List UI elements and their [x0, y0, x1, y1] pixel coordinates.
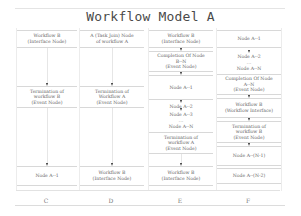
node-e-a1: Node A--1 [149, 75, 213, 100]
node-text: Node A--N [149, 124, 213, 130]
node-e-termination: Termination of workflow A (Event Node) [149, 132, 213, 154]
diagram-title: Workflow Model A [0, 9, 301, 24]
node-text: (Event Node) [217, 87, 281, 93]
node-text: (Workflow Interface) [217, 108, 281, 114]
node-d-termination: Termination of Workflow A (Event Node) [80, 86, 144, 108]
node-c-a1: Node A--1 [17, 166, 77, 186]
node-text: (Event Node) [149, 64, 213, 70]
node-text: (Event Node) [17, 100, 77, 106]
node-e-workflow-b-end: Workflow B (Interface Node) [149, 166, 213, 186]
node-text: Node A--1 [149, 85, 213, 91]
node-f-an: Node A--N [217, 65, 281, 72]
column-label-f: F [216, 197, 280, 204]
column-e: Workflow B (Interface Node) Completion O… [148, 28, 213, 191]
node-text: Node A--1 [17, 173, 77, 179]
node-text: Node A--(N-2) [217, 173, 281, 179]
node-e-completion: Completion Of Node B--N (Event Node) [149, 51, 213, 72]
column-f: Node A--1 Node A--2 ... Node A--N Comple… [216, 28, 282, 191]
column-label-c: C [16, 197, 76, 204]
node-c-termination: Termination of workflow B (Event Node) [17, 86, 77, 108]
node-text: Node A--1 [217, 36, 281, 42]
node-text: (Event Node) [217, 135, 281, 141]
node-text: (Interface Node) [149, 39, 213, 45]
node-text: of workflow A [80, 39, 144, 45]
node-text: (Interface Node) [17, 39, 77, 45]
column-label-d: D [79, 197, 143, 204]
connector-line [47, 108, 48, 164]
node-e-an: Node A--N [149, 123, 213, 130]
node-text: (Interface Node) [80, 176, 144, 182]
node-text: (Event Node) [149, 146, 213, 152]
node-text: (Interface Node) [149, 176, 213, 182]
connector-line [112, 108, 113, 164]
node-text: (Event Node) [80, 100, 144, 106]
node-f-an-2: Node A--(N-2) [217, 168, 281, 184]
node-f-completion: Completion Of Node A--N (Event Node) [217, 74, 281, 95]
node-c-workflow-b: Workflow B (Interface Node) [17, 30, 77, 48]
column-label-e: E [148, 197, 212, 204]
ellipsis: ... [217, 60, 281, 64]
node-f-termination: Termination of workflow B (Event Node) [217, 121, 281, 143]
node-d-task-join: A (Task Join) Node of workflow A [80, 30, 144, 48]
node-d-workflow-b: Workflow B (Interface Node) [80, 166, 144, 186]
node-text: Node A--N [217, 66, 281, 72]
column-c: Workflow B (Interface Node) Termination … [16, 28, 77, 191]
ellipsis: ... [149, 118, 213, 122]
node-text: Node A--(N-1) [217, 153, 281, 159]
connector-line [112, 48, 113, 84]
node-f-workflow-b: Workflow B (Workflow Interface) [217, 98, 281, 118]
node-e-workflow-b: Workflow B (Interface Node) [149, 30, 213, 48]
node-f-a1: Node A--1 [217, 30, 281, 48]
divider [16, 190, 280, 191]
connector-line [47, 48, 48, 84]
node-f-an-1: Node A--(N-1) [217, 146, 281, 166]
column-d: A (Task Join) Node of workflow A Termina… [79, 28, 144, 191]
